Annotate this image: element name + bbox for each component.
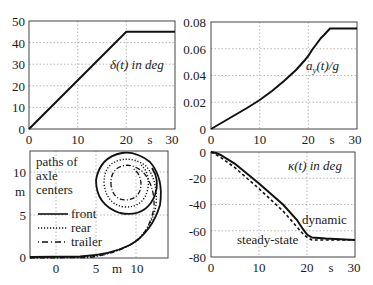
x-tick: 10 [71,132,84,147]
y-tick: 0.04 [183,68,206,83]
panel-title: δ(t) in deg [110,57,164,72]
x-tick: 10 [131,261,144,276]
legend-trailer-label: trailer [71,234,103,249]
y-tick: 0.02 [183,95,206,110]
x-tick: 30 [166,132,179,147]
panel-title-line-1: paths of [36,154,78,169]
y-tick: 20 [12,79,25,94]
x-tick: 5 [93,261,100,276]
y-tick: -80 [189,250,206,265]
panel-title-line-2: axle [36,168,58,183]
y-tick: 0.06 [183,42,206,57]
y-tick: 0.08 [183,15,206,30]
y-tick: 0 [200,122,207,137]
axes-frame [29,21,175,129]
dynamic-annotation: dynamic [302,212,347,227]
y-tick: 40 [12,36,25,51]
panel-articulation-angle: 0 -20 -40 -60 -80 0 10 20 s 30 κ(t) in d… [189,145,361,275]
y-unit-label: m [15,184,25,199]
steer-angle-line [29,32,175,129]
y-tick: 50 [12,14,25,29]
x-tick: 30 [348,260,361,275]
x-unit-label: s [329,132,334,147]
x-tick: 0 [53,261,60,276]
x-unit-label: s [328,260,333,275]
x-tick: 10 [253,132,266,147]
y-tick: -20 [189,171,206,186]
x-unit-label: s [147,132,152,147]
x-tick: 20 [120,132,133,147]
x-tick: 30 [349,132,362,147]
legend-front-label: front [71,206,97,221]
y-tick: 10 [13,165,26,180]
y-tick: 0 [20,250,27,265]
y-tick: 0 [19,122,26,137]
x-tick: 0 [26,132,33,147]
panel-axle-paths: paths of axle centers front rear trailer… [13,151,168,276]
x-tick: 0 [208,260,215,275]
y-tick: 5 [20,208,27,223]
y-tick: 30 [12,57,25,72]
x-tick: 10 [253,260,266,275]
figure-canvas: 0 10 20 30 40 50 0 10 20 s 30 δ(t) in de… [0,0,373,285]
x-tick: 0 [208,132,215,147]
y-tick: 10 [12,100,25,115]
y-tick: 0 [200,145,207,160]
panel-steer-angle: 0 10 20 30 40 50 0 10 20 s 30 δ(t) in de… [12,14,179,147]
x-tick: 20 [302,132,315,147]
panel-lateral-accel: 0 0.02 0.04 0.06 0.08 0 10 20 s 30 ay(t)… [183,15,361,147]
lateral-accel-line [211,29,357,130]
y-tick: -60 [189,224,206,239]
panel-title-line-3: centers [36,182,73,197]
legend-rear-label: rear [71,220,92,235]
steady-state-annotation: steady-state [237,232,299,247]
panel-title: ay(t)/g [306,58,339,75]
y-tick: -40 [189,197,206,212]
x-tick: 20 [301,260,314,275]
panel-title: κ(t) in deg [288,158,342,173]
x-unit-label: m [112,261,122,276]
